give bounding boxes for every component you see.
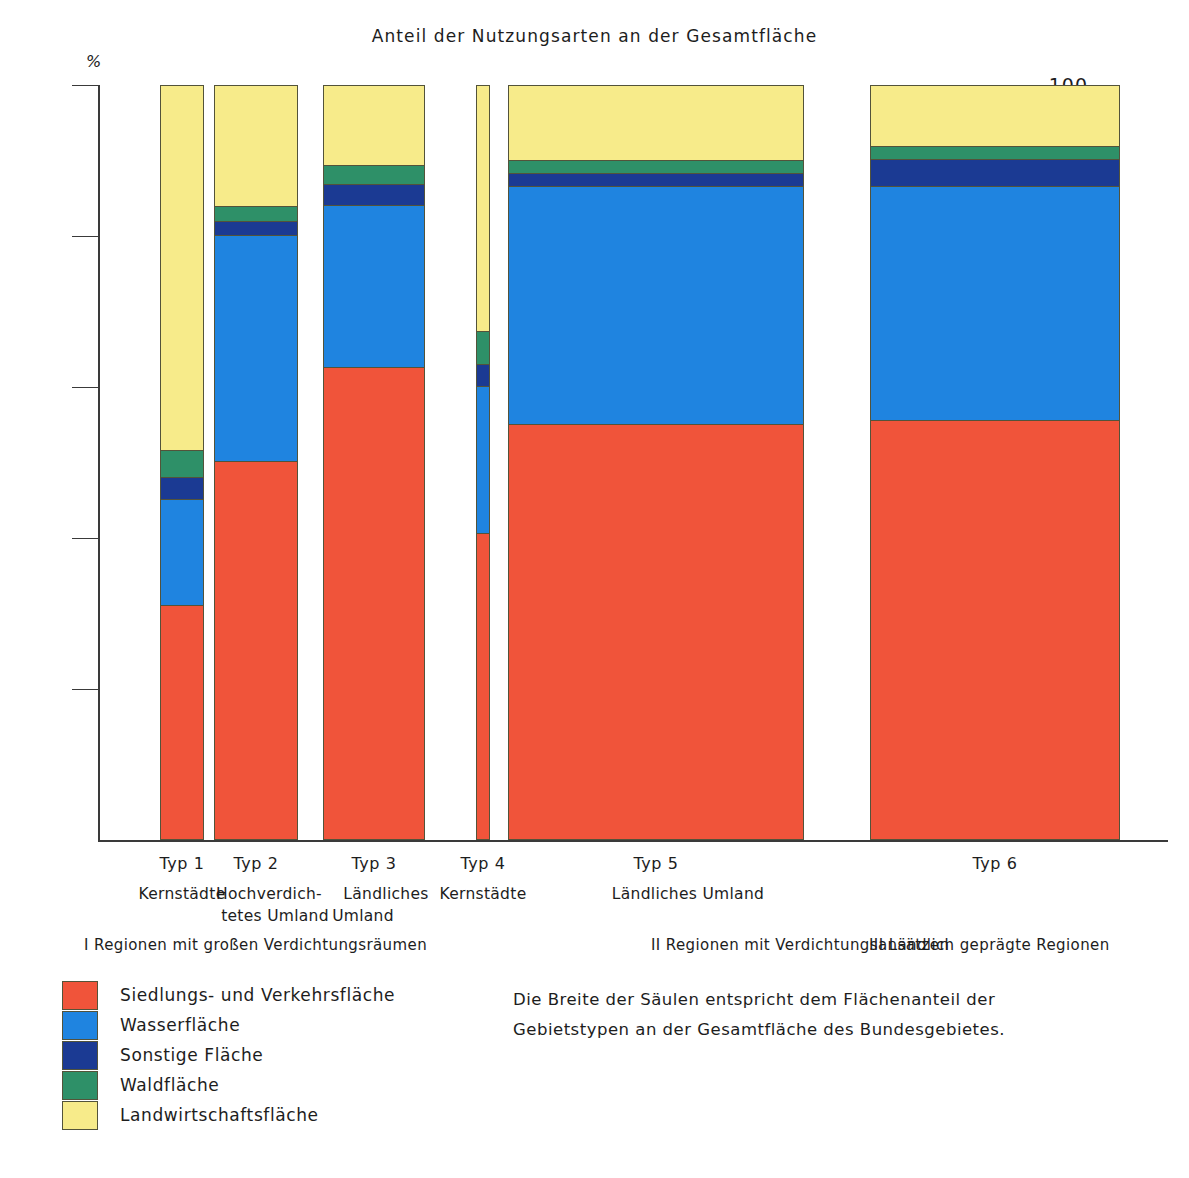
- bar-segment-wasserfläche[interactable]: [323, 206, 425, 368]
- legend-item-1[interactable]: Wasserfläche: [62, 1010, 395, 1040]
- bar-segment-siedlungs-[interactable]: [214, 462, 298, 840]
- bar-typ-6[interactable]: [870, 85, 1120, 840]
- bar-segment-waldfläche[interactable]: [323, 166, 425, 185]
- bar-segment-wasserfläche[interactable]: [870, 187, 1120, 421]
- y-axis-line: [98, 85, 100, 842]
- bar-typ-1[interactable]: [160, 85, 204, 840]
- bar-segment-siedlungs-[interactable]: [508, 425, 804, 840]
- legend-label: Waldfläche: [120, 1075, 219, 1095]
- bar-segment-landwirtschaftsfläche[interactable]: [160, 85, 204, 451]
- chart-note-line-1: Die Breite der Säulen entspricht dem Flä…: [513, 985, 1153, 1015]
- bar-segment-sonstige[interactable]: [214, 222, 298, 236]
- bar-segment-sonstige[interactable]: [160, 478, 204, 500]
- legend-label: Siedlungs- und Verkehrsfläche: [120, 985, 395, 1005]
- bar-segment-siedlungs-[interactable]: [160, 606, 204, 840]
- bar-segment-sonstige[interactable]: [508, 174, 804, 187]
- chart-note: Die Breite der Säulen entspricht dem Flä…: [513, 985, 1153, 1045]
- bar-segment-waldfläche[interactable]: [160, 451, 204, 478]
- legend-swatch-icon: [62, 1101, 98, 1130]
- bar-segment-waldfläche[interactable]: [870, 147, 1120, 160]
- legend-item-2[interactable]: Sonstige Fläche: [62, 1040, 395, 1070]
- x-label-typ-5: Typ 5: [586, 854, 726, 873]
- legend-item-3[interactable]: Waldfläche: [62, 1070, 395, 1100]
- bar-segment-waldfläche[interactable]: [214, 207, 298, 222]
- bar-segment-wasserfläche[interactable]: [476, 387, 490, 534]
- bar-segment-landwirtschaftsfläche[interactable]: [476, 85, 490, 332]
- y-tick-80: [72, 236, 98, 237]
- legend-swatch-icon: [62, 1071, 98, 1100]
- y-tick-60: [72, 387, 98, 388]
- group-label-3: III Ländlich geprägte Regionen: [869, 936, 1110, 954]
- bar-segment-landwirtschaftsfläche[interactable]: [214, 85, 298, 207]
- bar-segment-siedlungs-[interactable]: [870, 421, 1120, 840]
- y-axis-unit-label: %: [86, 52, 101, 71]
- legend-swatch-icon: [62, 1041, 98, 1070]
- bar-segment-sonstige[interactable]: [870, 160, 1120, 187]
- bar-typ-2[interactable]: [214, 85, 298, 840]
- legend-label: Sonstige Fläche: [120, 1045, 263, 1065]
- legend-swatch-icon: [62, 981, 98, 1010]
- bar-segment-siedlungs-[interactable]: [323, 368, 425, 840]
- bar-typ-5[interactable]: [508, 85, 804, 840]
- x-label-typ-4: Typ 4: [413, 854, 553, 873]
- bar-segment-waldfläche[interactable]: [476, 332, 490, 365]
- bar-segment-landwirtschaftsfläche[interactable]: [870, 85, 1120, 147]
- y-tick-20: [72, 689, 98, 690]
- x-sublabel-typ-4-line1: Kernstädte: [398, 884, 568, 905]
- x-sublabel-typ-5-line1: Ländliches Umland: [573, 884, 803, 905]
- legend-item-0[interactable]: Siedlungs- und Verkehrsfläche: [62, 980, 395, 1010]
- legend-item-4[interactable]: Landwirtschaftsfläche: [62, 1100, 395, 1130]
- page-title: Anteil der Nutzungsarten an der Gesamtfl…: [0, 26, 1189, 46]
- legend: Siedlungs- und VerkehrsflächeWasserfläch…: [62, 980, 395, 1130]
- y-tick-40: [72, 538, 98, 539]
- bar-segment-wasserfläche[interactable]: [508, 187, 804, 425]
- bar-segment-landwirtschaftsfläche[interactable]: [323, 85, 425, 166]
- chart-note-line-2: Gebietstypen an der Gesamtfläche des Bun…: [513, 1015, 1153, 1045]
- bar-segment-siedlungs-[interactable]: [476, 534, 490, 840]
- x-label-typ-6: Typ 6: [925, 854, 1065, 873]
- bar-segment-waldfläche[interactable]: [508, 161, 804, 175]
- bar-typ-3[interactable]: [323, 85, 425, 840]
- plot-area: 100 80 60 40 20: [98, 85, 1120, 840]
- group-label-1: I Regionen mit großen Verdichtungsräumen: [84, 936, 427, 954]
- bar-segment-wasserfläche[interactable]: [214, 236, 298, 463]
- x-axis-line: [98, 840, 1168, 842]
- legend-label: Wasserfläche: [120, 1015, 240, 1035]
- bar-segment-sonstige[interactable]: [476, 365, 490, 387]
- y-tick-100: [72, 85, 98, 86]
- bar-segment-sonstige[interactable]: [323, 185, 425, 206]
- bar-typ-4[interactable]: [476, 85, 490, 840]
- x-sublabel-typ-3-line2: Umland: [293, 906, 433, 927]
- bar-segment-wasserfläche[interactable]: [160, 500, 204, 606]
- bar-segment-landwirtschaftsfläche[interactable]: [508, 85, 804, 161]
- legend-swatch-icon: [62, 1011, 98, 1040]
- legend-label: Landwirtschaftsfläche: [120, 1105, 319, 1125]
